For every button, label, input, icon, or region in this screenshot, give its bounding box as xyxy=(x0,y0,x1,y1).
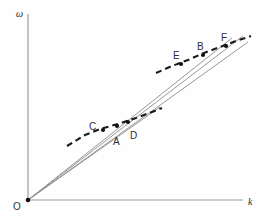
point-label-f: F xyxy=(221,33,227,43)
data-point-e xyxy=(179,62,183,66)
x-axis-label: k xyxy=(248,197,252,207)
data-point-a xyxy=(115,124,119,128)
data-point-f xyxy=(224,44,228,48)
dispersion-diagram: ω k O A B C D E F xyxy=(0,0,267,222)
point-label-e: E xyxy=(173,51,180,61)
data-point-b xyxy=(201,53,205,57)
ray-ray-through-C-E xyxy=(28,38,232,200)
point-label-d: D xyxy=(130,131,137,141)
point-label-a: A xyxy=(113,137,120,147)
point-label-b: B xyxy=(197,42,204,52)
y-axis-label: ω xyxy=(16,9,23,19)
point-label-c: C xyxy=(89,122,96,132)
origin-point xyxy=(26,198,31,203)
data-point-c xyxy=(101,128,105,132)
data-point-d xyxy=(126,120,130,124)
origin-label: O xyxy=(13,202,21,212)
